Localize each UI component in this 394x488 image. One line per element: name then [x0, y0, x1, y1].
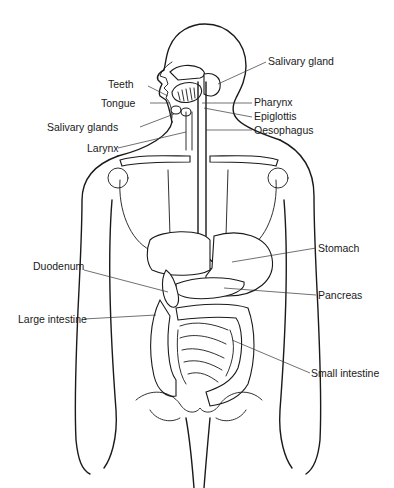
large-intestine-shape: [151, 300, 176, 396]
leader-duodenum: [84, 270, 168, 292]
leg-inner: [186, 418, 210, 488]
label-teeth: Teeth: [108, 78, 134, 90]
leader-larynx: [118, 132, 186, 148]
label-epiglottis: Epiglottis: [254, 110, 297, 122]
small-intestine-coils: [177, 323, 233, 384]
humerus-head-right: [268, 168, 288, 188]
face-profile: [160, 62, 172, 118]
label-oesophagus: Oesophagus: [254, 124, 314, 136]
label-pharynx: Pharynx: [254, 96, 293, 108]
nasal-cavity: [170, 65, 205, 80]
arm-inner-right: [280, 200, 292, 468]
clavicle-right: [210, 156, 278, 166]
clavicle-left: [120, 156, 190, 166]
humerus-head-left: [108, 168, 128, 188]
label-pancreas: Pancreas: [318, 289, 362, 301]
leader-salivary-gland: [218, 62, 266, 84]
label-stomach: Stomach: [318, 242, 360, 254]
label-duodenum: Duodenum: [33, 260, 85, 272]
colon-transverse-descending: [176, 304, 254, 406]
arm-inner-left: [104, 200, 116, 468]
label-salivary-glands: Salivary glands: [47, 121, 118, 133]
label-tongue: Tongue: [101, 97, 136, 109]
liver: [147, 232, 210, 276]
label-small-intestine: Small intestine: [311, 367, 379, 379]
larynx-trachea: [186, 112, 192, 150]
label-large-intestine: Large intestine: [18, 313, 87, 325]
leader-epiglottis: [204, 108, 252, 117]
leader-salivary-glands: [140, 114, 174, 127]
pelvis: [136, 392, 262, 421]
label-salivary-gland: Salivary gland: [268, 55, 334, 67]
label-larynx: Larynx: [87, 142, 119, 154]
digestive-system-diagram: Salivary gland Teeth Tongue Pharynx Epig…: [0, 0, 394, 488]
neck-left: [118, 122, 172, 156]
submandibular-gland: [171, 106, 181, 114]
leader-large-intestine: [84, 315, 156, 319]
